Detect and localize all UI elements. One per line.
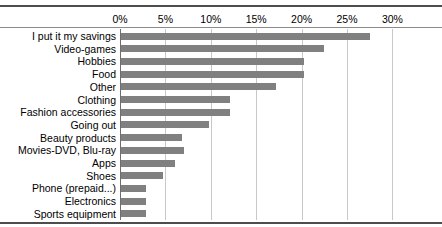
bar (121, 210, 146, 217)
bar (121, 33, 370, 40)
bar (121, 198, 146, 205)
chart-bottom-rule (0, 222, 442, 224)
bar (121, 185, 146, 192)
category-label: Electronics (65, 195, 116, 207)
category-label: Shoes (86, 170, 116, 182)
category-label: Phone (prepaid...) (32, 182, 116, 194)
bar-chart: 0%5%10%15%20%25%30% I put it my savingsV… (0, 0, 442, 227)
bar (121, 83, 276, 90)
category-label: Sports equipment (34, 208, 116, 220)
x-axis-tick-label: 25% (336, 12, 357, 26)
bar (121, 96, 230, 103)
category-label: Fashion accessories (20, 106, 116, 118)
bar (121, 121, 209, 128)
category-label: I put it my savings (32, 30, 116, 42)
category-axis-labels: I put it my savingsVideo-gamesHobbiesFoo… (0, 29, 116, 220)
category-label: Beauty products (40, 132, 116, 144)
category-label: Clothing (77, 94, 116, 106)
x-axis-tick-labels: 0%5%10%15%20%25%30% (0, 12, 442, 26)
plot-top-border (0, 27, 442, 28)
bar (121, 134, 182, 141)
category-label: Video-games (54, 43, 116, 55)
x-axis-tick-label: 20% (291, 12, 312, 26)
bar (121, 109, 230, 116)
category-label: Food (92, 68, 116, 80)
chart-top-rule (0, 5, 442, 7)
x-axis-tick-label: 10% (200, 12, 221, 26)
bar (121, 147, 184, 154)
category-label: Hobbies (77, 55, 116, 67)
bar (121, 71, 304, 78)
bar (121, 45, 324, 52)
x-axis-tick-label: 15% (246, 12, 267, 26)
x-axis-tick-label: 0% (112, 12, 127, 26)
category-label: Going out (70, 119, 116, 131)
x-axis-tick-label: 30% (382, 12, 403, 26)
category-label: Other (90, 81, 116, 93)
bar (121, 172, 163, 179)
category-label: Movies-DVD, Blu-ray (18, 144, 116, 156)
bar-series (121, 29, 393, 220)
bar (121, 160, 175, 167)
x-axis-tick-label: 5% (158, 12, 173, 26)
category-label: Apps (92, 157, 116, 169)
bar (121, 58, 304, 65)
